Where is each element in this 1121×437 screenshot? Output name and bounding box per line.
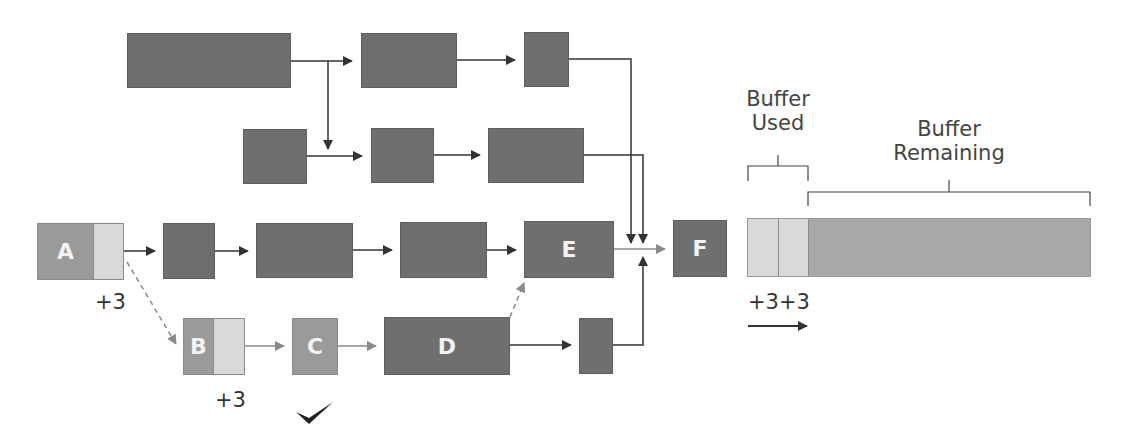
task-r3-1 (163, 223, 215, 279)
task-b-delay-label: +3 (215, 390, 246, 411)
task-c: C (292, 318, 338, 375)
buffer-remaining-line1: Buffer (889, 118, 1009, 142)
task-c-label: C (307, 334, 323, 359)
buffer-used-bracket (748, 166, 808, 181)
task-d: D (384, 317, 510, 375)
task-b-delay-segment (214, 319, 244, 374)
task-r1-1 (127, 33, 291, 88)
task-r2-1 (243, 129, 307, 184)
buffer-remaining-line2: Remaining (889, 142, 1009, 166)
task-r2-3 (488, 128, 584, 183)
task-a-body: A (38, 224, 94, 279)
task-a: A (37, 223, 124, 280)
buffer-remaining-bracket (808, 192, 1090, 206)
buffer-remaining-header: Buffer Remaining (889, 118, 1009, 165)
task-r2-2 (371, 128, 434, 183)
task-r4-small (579, 318, 613, 374)
task-b: B (183, 318, 245, 375)
arrow-r4-to-f (612, 257, 643, 345)
task-a-delay-segment (94, 224, 123, 279)
task-a-label: A (57, 239, 74, 264)
task-e-label: E (561, 237, 576, 262)
dashed-arrow-d-to-e (510, 283, 524, 317)
task-b-label: B (190, 334, 207, 359)
task-r3-2 (256, 223, 353, 278)
buffer-used-line2: Used (738, 112, 818, 136)
task-e: E (524, 221, 614, 278)
task-r3-3 (400, 222, 487, 278)
task-d-label: D (438, 334, 456, 359)
task-f: F (673, 220, 727, 277)
task-f-label: F (692, 236, 707, 261)
task-r1-2 (361, 33, 457, 88)
task-a-delay-label: +3 (95, 292, 126, 313)
check-mark-icon (296, 402, 333, 424)
buffer-used-segment-1 (748, 219, 779, 276)
task-r1-3 (524, 32, 569, 87)
buffer-consumed-label: +3+3 (748, 292, 810, 313)
task-b-body: B (184, 319, 214, 374)
buffer-used-line1: Buffer (738, 88, 818, 112)
buffer-bar (747, 218, 1091, 277)
buffer-used-header: Buffer Used (738, 88, 818, 135)
buffer-used-segment-2 (779, 219, 809, 276)
